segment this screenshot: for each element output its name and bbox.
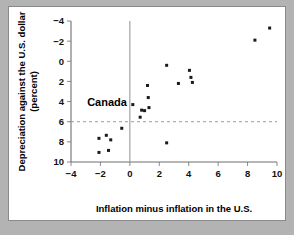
y-tick-label: 6 [59,116,64,127]
data-point [131,103,134,106]
data-point [188,69,191,72]
y-tick-label: −4 [53,15,65,26]
y-tick-label: 2 [59,76,64,87]
y-axis-tick-labels: 1086420−2−4 [53,15,65,167]
x-tick-label: 2 [157,168,162,179]
data-point [107,149,110,152]
data-point [147,96,150,99]
figure-root: 1086420−2−4 −4−20246810 Canada Inflation… [0,0,294,235]
data-point [146,84,149,87]
x-tick-label: 8 [245,168,250,179]
data-point [143,109,146,112]
x-tick-label: 0 [127,168,132,179]
data-points [97,27,271,154]
x-tick-label: −2 [95,168,106,179]
y-tick-label: 10 [53,156,64,167]
x-axis-tick-labels: −4−20246810 [66,168,283,179]
x-tick-label: −4 [66,168,78,179]
data-point [97,137,100,140]
x-axis-ticks [71,162,277,166]
data-point [191,81,194,84]
scatter-plot: 1086420−2−4 −4−20246810 Canada Inflation… [9,7,285,220]
x-tick-label: 4 [186,168,192,179]
data-point [140,109,143,112]
y-axis-ticks [67,21,71,162]
y-axis-title-line2: (percent) [28,71,39,112]
x-axis-title: Inflation minus inflation in the U.S. [96,203,252,214]
data-point [165,141,168,144]
y-tick-label: −2 [53,36,64,47]
y-axis-title-line1: Depreciation against the U.S. dollar [16,11,27,171]
data-point [253,39,256,42]
y-tick-label: 8 [59,136,64,147]
data-point [177,82,180,85]
data-point [109,138,112,141]
x-tick-label: 6 [215,168,220,179]
data-point [147,106,150,109]
chart-card: 1086420−2−4 −4−20246810 Canada Inflation… [8,6,286,221]
data-point [165,64,168,67]
data-point [268,27,271,30]
x-tick-label: 10 [272,168,283,179]
data-point [120,127,123,130]
data-point [189,76,192,79]
data-point [97,151,100,154]
y-tick-label: 4 [59,96,65,107]
y-tick-label: 0 [59,56,64,67]
data-point [105,134,108,137]
canada-annotation-label: Canada [87,96,128,108]
data-point [139,116,142,119]
